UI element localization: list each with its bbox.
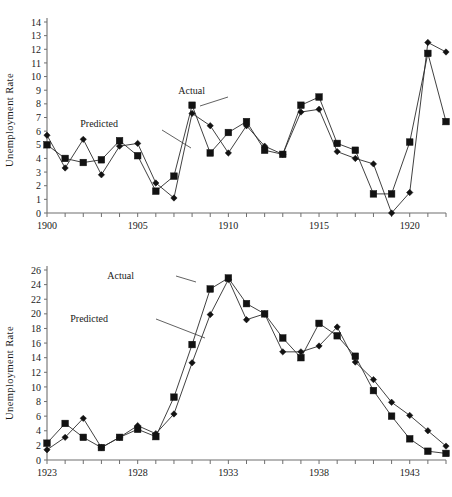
- data-point-actual: [334, 140, 341, 147]
- y-tick-label: 8: [36, 98, 41, 109]
- data-point-actual: [207, 286, 214, 293]
- data-point-actual: [352, 147, 359, 154]
- y-tick-label: 3: [36, 167, 41, 178]
- data-point-actual: [334, 332, 341, 339]
- y-tick-label: 4: [36, 153, 41, 164]
- y-tick-label: 7: [36, 112, 41, 123]
- data-point-predicted: [425, 39, 431, 45]
- data-point-actual: [44, 141, 51, 148]
- y-tick-label: 6: [36, 126, 41, 137]
- data-point-predicted: [443, 49, 449, 55]
- data-point-actual: [189, 341, 196, 348]
- data-point-actual: [80, 434, 87, 441]
- data-point-predicted: [370, 161, 376, 167]
- y-tick-label: 18: [31, 323, 41, 334]
- series-annotation-actual: Actual: [107, 270, 134, 281]
- x-tick-label: 1943: [400, 467, 420, 478]
- data-point-actual: [62, 155, 69, 162]
- data-point-actual: [316, 320, 323, 327]
- data-point-actual: [443, 118, 450, 125]
- y-tick-label: 0: [36, 208, 41, 219]
- y-tick-label: 5: [36, 139, 41, 150]
- data-point-actual: [406, 139, 413, 146]
- series-annotation-predicted: Predicted: [70, 313, 108, 324]
- bottom-panel-svg: Unemployment Rate02468101214161820222426…: [0, 248, 452, 497]
- data-point-actual: [44, 440, 51, 447]
- data-point-predicted: [207, 311, 213, 317]
- data-point-actual: [225, 129, 232, 136]
- y-tick-label: 24: [31, 279, 41, 290]
- data-point-actual: [406, 436, 413, 443]
- data-point-actual: [279, 335, 286, 342]
- y-tick-label: 16: [31, 338, 41, 349]
- y-tick-label: 10: [31, 382, 41, 393]
- y-tick-label: 14: [31, 352, 41, 363]
- y-tick-label: 20: [31, 308, 41, 319]
- y-tick-label: 6: [36, 411, 41, 422]
- series-annotation-predicted: Predicted: [80, 118, 118, 129]
- y-tick-label: 0: [36, 455, 41, 466]
- data-point-predicted: [316, 106, 322, 112]
- data-point-actual: [207, 150, 214, 157]
- y-tick-label: 26: [31, 265, 41, 276]
- x-tick-label: 1910: [218, 220, 238, 231]
- data-point-actual: [388, 413, 395, 420]
- data-point-actual: [388, 191, 395, 198]
- data-point-actual: [189, 102, 196, 109]
- data-point-predicted: [298, 109, 304, 115]
- y-tick-label: 11: [31, 58, 41, 69]
- data-point-actual: [153, 188, 160, 195]
- y-tick-label: 13: [31, 30, 41, 41]
- data-point-actual: [134, 152, 141, 159]
- data-point-actual: [80, 159, 87, 166]
- x-tick-label: 1900: [37, 220, 57, 231]
- data-point-predicted: [334, 148, 340, 154]
- data-point-predicted: [225, 150, 231, 156]
- data-point-actual: [62, 420, 69, 427]
- top-chart-panel: Unemployment Rate01234567891011121314190…: [0, 0, 452, 248]
- data-point-actual: [370, 191, 377, 198]
- data-point-predicted: [80, 136, 86, 142]
- data-point-actual: [316, 94, 323, 101]
- x-tick-label: 1915: [309, 220, 329, 231]
- data-point-predicted: [189, 360, 195, 366]
- data-point-actual: [298, 102, 305, 109]
- y-tick-label: 12: [31, 44, 41, 55]
- y-tick-label: 1: [36, 194, 41, 205]
- y-tick-label: 2: [36, 180, 41, 191]
- top-panel-svg: Unemployment Rate01234567891011121314190…: [0, 0, 452, 248]
- data-point-actual: [171, 394, 178, 401]
- data-point-predicted: [134, 140, 140, 146]
- data-point-predicted: [207, 122, 213, 128]
- data-point-predicted: [44, 132, 50, 138]
- y-tick-label: 10: [31, 71, 41, 82]
- data-point-predicted: [62, 165, 68, 171]
- data-point-actual: [370, 387, 377, 394]
- data-point-predicted: [98, 172, 104, 178]
- data-point-predicted: [280, 349, 286, 355]
- y-tick-label: 8: [36, 396, 41, 407]
- data-point-actual: [171, 173, 178, 180]
- data-point-actual: [443, 450, 450, 457]
- y-tick-label: 2: [36, 440, 41, 451]
- y-tick-label: 14: [31, 17, 41, 28]
- bottom-chart-panel: Unemployment Rate02468101214161820222426…: [0, 248, 452, 497]
- y-tick-label: 12: [31, 367, 41, 378]
- data-point-actual: [425, 448, 432, 455]
- x-tick-label: 1905: [128, 220, 148, 231]
- data-point-actual: [98, 156, 105, 163]
- y-axis-label: Unemployment Rate: [4, 73, 15, 167]
- data-point-actual: [243, 300, 250, 307]
- x-tick-label: 1920: [400, 220, 420, 231]
- leader-line-actual: [176, 276, 196, 282]
- x-tick-label: 1933: [218, 467, 238, 478]
- data-point-actual: [425, 50, 432, 57]
- y-tick-label: 9: [36, 85, 41, 96]
- series-annotation-actual: Actual: [178, 85, 205, 96]
- y-tick-label: 4: [36, 425, 41, 436]
- leader-line-actual: [200, 97, 228, 106]
- y-axis-label: Unemployment Rate: [4, 326, 15, 420]
- x-tick-label: 1938: [309, 467, 329, 478]
- data-point-predicted: [243, 316, 249, 322]
- y-tick-label: 22: [31, 294, 41, 305]
